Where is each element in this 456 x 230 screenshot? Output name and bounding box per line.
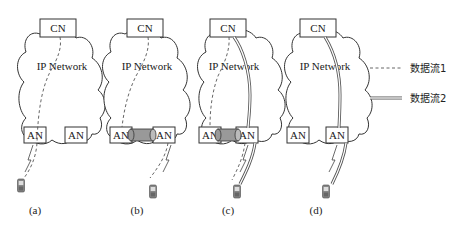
cn-label: CN xyxy=(220,22,235,34)
legend-flow2-label: 数据流2 xyxy=(410,92,446,104)
mobile-device-icon xyxy=(18,179,25,192)
tunnel-cylinder xyxy=(215,129,241,141)
cn-label: CN xyxy=(310,22,325,34)
an-right-label: AN xyxy=(239,129,255,141)
an-left-label: AN xyxy=(290,129,306,141)
mobile-device-icon xyxy=(323,185,330,198)
an-right-label: AN xyxy=(156,129,172,141)
an-left-label: AN xyxy=(113,129,129,141)
an-right-label: AN xyxy=(329,129,345,141)
legend: 数据流1 数据流2 xyxy=(370,62,446,104)
wireless-link-icon xyxy=(25,145,33,172)
panel-caption: (d) xyxy=(310,204,323,217)
panel-caption: (c) xyxy=(222,204,235,217)
panel-caption: (b) xyxy=(131,204,144,217)
network-diagram: CN IP Network AN AN (a) CN IP Network AN… xyxy=(0,0,456,230)
cn-label: CN xyxy=(137,22,152,34)
panel-a: CN IP Network AN AN (a) xyxy=(18,19,106,217)
panel-c: CN IP Network AN AN (c) xyxy=(198,19,286,217)
cn-label: CN xyxy=(50,22,65,34)
ip-network-label: IP Network xyxy=(122,60,173,72)
wireless-link-icon xyxy=(329,145,337,172)
tunnel-cylinder xyxy=(128,129,156,141)
ip-network-label: IP Network xyxy=(300,60,351,72)
ip-network-label: IP Network xyxy=(37,60,88,72)
ip-network-label: IP Network xyxy=(209,60,260,72)
panel-caption: (a) xyxy=(29,204,42,217)
panel-d: CN IP Network AN AN (d) xyxy=(285,19,373,217)
mobile-device-icon xyxy=(150,185,157,198)
an-right-label: AN xyxy=(68,129,84,141)
legend-flow1-label: 数据流1 xyxy=(410,62,446,74)
flow1-path xyxy=(150,143,168,178)
an-left-label: AN xyxy=(27,129,43,141)
panel-b: CN IP Network AN AN (b) xyxy=(103,19,191,217)
mobile-device-icon xyxy=(234,185,241,198)
